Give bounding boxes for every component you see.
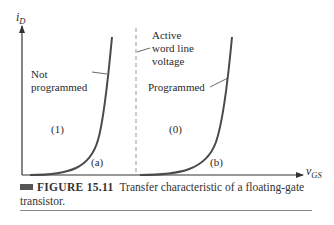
figure-caption: FIGURE 15.11Transfer characteristic of a… (20, 180, 320, 208)
curve-a-label: (a) (91, 156, 104, 169)
state-0-label: (0) (169, 123, 182, 136)
programmed-leader (210, 78, 228, 87)
state-1-label: (1) (51, 123, 64, 136)
figure-number: FIGURE 15.11 (37, 181, 113, 193)
caption-rule (20, 210, 312, 211)
word-line-leader (137, 48, 150, 52)
y-axis-label: iD (16, 10, 26, 26)
curve-b-label: (b) (210, 156, 223, 169)
x-axis-label: vGS (306, 164, 322, 180)
programmed-label: Programmed (148, 81, 205, 93)
not-programmed-leader (92, 72, 107, 74)
caption-marker-icon (20, 184, 33, 190)
curve-a (30, 37, 112, 175)
not-programmed-label: Not programmed (31, 68, 88, 93)
word-line-label: Active word line voltage (152, 29, 197, 67)
